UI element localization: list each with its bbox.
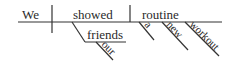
sentence-diagram: We showed routine friends our a new work… <box>0 0 237 63</box>
verb-word: showed <box>73 7 113 22</box>
subject-word: We <box>22 7 39 22</box>
modifier-word-workout: workout <box>188 18 222 52</box>
indirect-object-slant <box>72 22 85 42</box>
